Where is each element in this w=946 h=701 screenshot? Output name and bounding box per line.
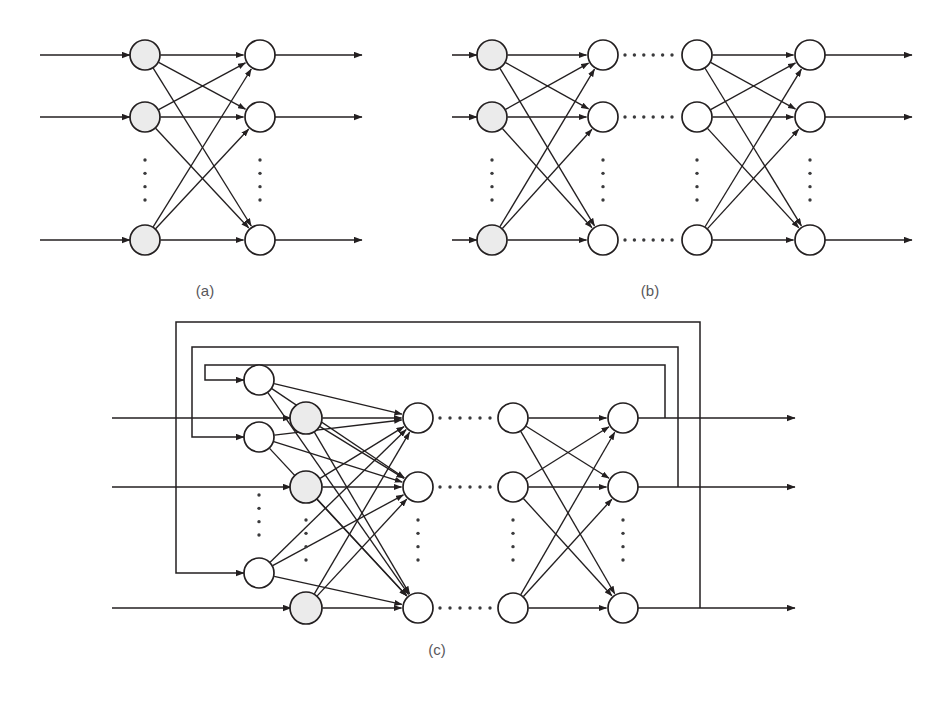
vertical-ellipsis-dot — [416, 558, 419, 561]
horizontal-ellipsis-dot — [633, 238, 636, 241]
vertical-ellipsis-dot — [490, 158, 493, 161]
neuron-c-hidden-layer-1-3 — [403, 593, 433, 623]
neuron-c-hidden-layer-n-2 — [498, 472, 528, 502]
vertical-ellipsis-dot — [258, 198, 261, 201]
vertical-ellipsis-dot — [808, 198, 811, 201]
vertical-ellipsis-dot — [416, 532, 419, 535]
vertical-ellipsis-dot — [304, 518, 307, 521]
vertical-ellipsis-dot — [601, 185, 604, 188]
horizontal-ellipsis-dot — [468, 485, 471, 488]
neuron-c-output-layer-1 — [608, 403, 638, 433]
vertical-ellipsis-dot — [695, 158, 698, 161]
horizontal-ellipsis-dot — [478, 606, 481, 609]
neuron-b-hidden-layer-n-1 — [682, 40, 712, 70]
neuron-b-input-layer-3 — [477, 225, 507, 255]
neuron-b-output-layer-1 — [795, 40, 825, 70]
horizontal-ellipsis-dot — [642, 115, 645, 118]
horizontal-ellipsis-dot — [623, 115, 626, 118]
neuron-a-input-layer-2 — [130, 102, 160, 132]
horizontal-ellipsis-dot — [670, 53, 673, 56]
horizontal-ellipsis-dot — [448, 416, 451, 419]
neuron-c-hidden-layer-1-1 — [403, 403, 433, 433]
neuron-a-output-layer-3 — [245, 225, 275, 255]
horizontal-ellipsis-dot — [661, 115, 664, 118]
neuron-c-hidden-layer-1-2 — [403, 472, 433, 502]
vertical-ellipsis-dot — [304, 532, 307, 535]
horizontal-ellipsis-dot — [458, 606, 461, 609]
neuron-b-hidden-layer-n-2 — [682, 102, 712, 132]
horizontal-ellipsis-dot — [661, 238, 664, 241]
neuron-c-hidden-layer-n-1 — [498, 403, 528, 433]
horizontal-ellipsis-dot — [438, 606, 441, 609]
neuron-c-hidden-layer-n-3 — [498, 593, 528, 623]
vertical-ellipsis-dot — [695, 172, 698, 175]
horizontal-ellipsis-dot — [670, 115, 673, 118]
neuron-a-output-layer-2 — [245, 102, 275, 132]
neuron-c-context-layer-2 — [244, 422, 274, 452]
neural-network-diagram: (a) (b) (c) — [0, 0, 946, 701]
horizontal-ellipsis-dot — [458, 485, 461, 488]
neuron-c-output-layer-2 — [608, 472, 638, 502]
neuron-a-input-layer-3 — [130, 225, 160, 255]
neuron-c-input-layer-1 — [290, 402, 322, 434]
vertical-ellipsis-dot — [695, 185, 698, 188]
vertical-ellipsis-dot — [808, 158, 811, 161]
panel-c-caption: (c) — [428, 641, 446, 658]
vertical-ellipsis-dot — [490, 198, 493, 201]
vertical-ellipsis-dot — [601, 172, 604, 175]
vertical-ellipsis-dot — [257, 507, 260, 510]
horizontal-ellipsis-dot — [458, 416, 461, 419]
horizontal-ellipsis-dot — [448, 606, 451, 609]
neuron-b-output-layer-3 — [795, 225, 825, 255]
neuron-c-context-layer-3 — [244, 558, 274, 588]
vertical-ellipsis-dot — [143, 172, 146, 175]
horizontal-ellipsis-dot — [623, 238, 626, 241]
horizontal-ellipsis-dot — [652, 53, 655, 56]
vertical-ellipsis-dot — [601, 198, 604, 201]
vertical-ellipsis-dot — [621, 518, 624, 521]
vertical-ellipsis-dot — [143, 158, 146, 161]
horizontal-ellipsis-dot — [652, 115, 655, 118]
horizontal-ellipsis-dot — [488, 606, 491, 609]
neuron-b-hidden-layer-1-2 — [588, 102, 618, 132]
vertical-ellipsis-dot — [257, 520, 260, 523]
vertical-ellipsis-dot — [621, 558, 624, 561]
neuron-b-output-layer-2 — [795, 102, 825, 132]
vertical-ellipsis-dot — [490, 185, 493, 188]
neuron-a-output-layer-1 — [245, 40, 275, 70]
neuron-b-hidden-layer-1-1 — [588, 40, 618, 70]
horizontal-ellipsis-dot — [633, 115, 636, 118]
vertical-ellipsis-dot — [143, 185, 146, 188]
neuron-b-hidden-layer-n-3 — [682, 225, 712, 255]
neuron-c-context-layer-1 — [244, 365, 274, 395]
horizontal-ellipsis-dot — [468, 416, 471, 419]
vertical-ellipsis-dot — [511, 558, 514, 561]
vertical-ellipsis-dot — [695, 198, 698, 201]
vertical-ellipsis-dot — [511, 518, 514, 521]
horizontal-ellipsis-dot — [642, 53, 645, 56]
horizontal-ellipsis-dot — [652, 238, 655, 241]
horizontal-ellipsis-dot — [438, 416, 441, 419]
vertical-ellipsis-dot — [416, 545, 419, 548]
neuron-a-input-layer-1 — [130, 40, 160, 70]
vertical-ellipsis-dot — [258, 185, 261, 188]
horizontal-ellipsis-dot — [478, 416, 481, 419]
horizontal-ellipsis-dot — [468, 606, 471, 609]
vertical-ellipsis-dot — [143, 198, 146, 201]
horizontal-ellipsis-dot — [488, 485, 491, 488]
vertical-ellipsis-dot — [511, 545, 514, 548]
vertical-ellipsis-dot — [490, 172, 493, 175]
panel-a-caption: (a) — [196, 282, 214, 299]
vertical-ellipsis-dot — [257, 493, 260, 496]
vertical-ellipsis-dot — [808, 172, 811, 175]
vertical-ellipsis-dot — [621, 545, 624, 548]
neuron-b-input-layer-2 — [477, 102, 507, 132]
figure-root: (a) (b) (c) — [0, 0, 946, 701]
vertical-ellipsis-dot — [621, 532, 624, 535]
vertical-ellipsis-dot — [258, 172, 261, 175]
vertical-ellipsis-dot — [511, 532, 514, 535]
horizontal-ellipsis-dot — [478, 485, 481, 488]
horizontal-ellipsis-dot — [642, 238, 645, 241]
neuron-c-input-layer-3 — [290, 592, 322, 624]
neuron-c-input-layer-2 — [290, 471, 322, 503]
